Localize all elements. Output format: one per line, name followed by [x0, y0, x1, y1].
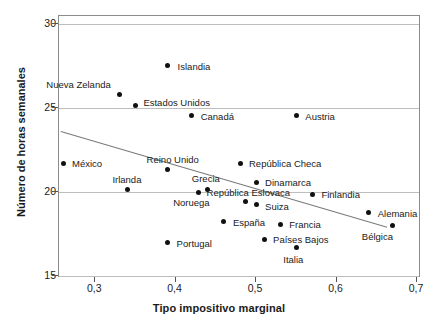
data-point-marker [278, 222, 283, 227]
data-point-label: Finlandia [321, 190, 360, 200]
x-tick-label-0,6: 0,6 [316, 283, 356, 294]
data-point-label: Estados Unidos [143, 98, 210, 108]
data-point-marker [254, 202, 259, 207]
data-point-marker [390, 223, 395, 228]
scatter-chart: Número de horas semanales 15202530 Islan… [0, 0, 438, 325]
data-point-label: Países Bajos [273, 235, 328, 245]
x-axis-title: Tipo impositivo marginal [0, 302, 438, 314]
data-point-label: Irlanda [112, 175, 141, 185]
data-point-label: Bélgica [362, 232, 393, 242]
x-tick-mark-0,3 [94, 277, 95, 282]
y-axis-title: Número de horas semanales [15, 17, 27, 267]
data-point-marker [238, 161, 243, 166]
x-tick-label-0,4: 0,4 [155, 283, 195, 294]
data-point-label: Austria [305, 112, 335, 122]
data-point-marker [165, 63, 170, 68]
data-point-label: Nueva Zelanda [46, 80, 110, 90]
data-point-marker [294, 245, 299, 250]
data-point-label: Canadá [201, 112, 234, 122]
data-point-label: Alemania [378, 209, 418, 219]
gridline-y-15 [59, 276, 419, 277]
data-point-label: Noruega [173, 198, 209, 208]
gridline-y-25 [59, 108, 419, 109]
data-point-label: México [72, 159, 102, 169]
data-point-marker [117, 92, 122, 97]
data-point-marker [366, 210, 371, 215]
x-tick-mark-0,4 [175, 277, 176, 282]
plot-area: IslandiaNueva ZelandaEstados UnidosCanad… [58, 15, 420, 277]
x-tick-mark-0,5 [255, 277, 256, 282]
data-point-marker [61, 161, 66, 166]
gridline-y-30 [59, 24, 419, 25]
data-point-label: República Eslovaca [207, 188, 290, 198]
x-tick-mark-0,6 [336, 277, 337, 282]
data-point-label: España [233, 218, 265, 228]
data-point-marker [254, 180, 259, 185]
x-tick-label-0,3: 0,3 [74, 283, 114, 294]
data-point-marker [189, 113, 194, 118]
x-tick-mark-0,7 [416, 277, 417, 282]
data-point-label: Grecia [192, 174, 220, 184]
data-point-label: Italia [283, 255, 303, 265]
data-point-marker [243, 199, 248, 204]
data-point-label: Reino Unido [147, 155, 199, 165]
data-point-marker [294, 113, 299, 118]
data-point-label: Islandia [178, 62, 211, 72]
data-point-marker [262, 237, 267, 242]
data-point-label: Portugal [177, 239, 212, 249]
x-tick-label-0,5: 0,5 [235, 283, 275, 294]
data-point-label: Francia [289, 220, 321, 230]
data-point-label: Suiza [265, 202, 289, 212]
x-tick-label-0,7: 0,7 [396, 283, 436, 294]
regression-line [61, 131, 387, 228]
data-point-marker [196, 190, 201, 195]
data-point-marker [165, 240, 170, 245]
data-point-marker [165, 167, 170, 172]
data-point-label: República Checa [249, 159, 321, 169]
data-point-marker [221, 219, 226, 224]
data-point-marker [310, 192, 315, 197]
